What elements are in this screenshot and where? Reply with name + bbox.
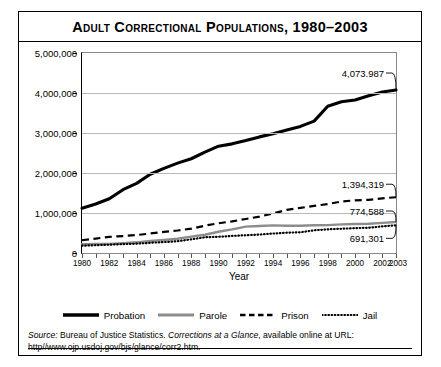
x-axis-tick-label: 1994 (264, 259, 282, 268)
x-axis-tick-mark (150, 254, 151, 258)
legend-swatch-prison (240, 310, 276, 320)
x-axis-tick-mark (164, 254, 165, 258)
x-axis-tick-mark (191, 254, 192, 258)
series-layer (82, 53, 396, 253)
figure-container: Adult Correctional Populations, 1980–200… (18, 11, 422, 356)
source-body-1: Bureau of Justice Statistics. (58, 330, 168, 340)
x-axis-tick-label: 2003 (389, 259, 407, 268)
gridline (82, 93, 396, 94)
y-axis-tick-label: 5,000,000 (35, 48, 77, 59)
x-axis-tick-mark (382, 254, 383, 258)
x-axis-tick-label: 1980 (73, 259, 91, 268)
y-axis-tick-label: 3,000,000 (35, 128, 77, 139)
x-axis-tick-label: 1990 (209, 259, 227, 268)
x-axis-tick-label: 1998 (319, 259, 337, 268)
x-axis-tick-mark (355, 254, 356, 258)
x-axis-tick-mark (178, 254, 179, 258)
x-axis-tick-mark (137, 254, 138, 258)
x-axis-tick-mark (287, 254, 288, 258)
x-axis-tick-label: 1986 (155, 259, 173, 268)
legend-item-jail: Jail (322, 310, 378, 321)
legend-label: Jail (363, 310, 378, 321)
legend: ProbationParolePrisonJail (19, 304, 421, 326)
y-axis-tick-mark (73, 53, 77, 54)
x-axis-tick-label: 2000 (346, 259, 364, 268)
legend-label: Prison (281, 310, 308, 321)
series-line-probation (82, 90, 396, 208)
data-label-parole: 774,588 (19, 206, 384, 217)
x-axis-tick-label: 1984 (127, 259, 145, 268)
x-axis-tick-mark (96, 254, 97, 258)
y-axis-tick-label: 2,000,000 (35, 168, 77, 179)
source-work-title: Corrections at a Glance (168, 330, 258, 340)
x-axis-tick-mark (246, 254, 247, 258)
y-axis-tick-mark (73, 93, 77, 94)
x-axis-tick-mark (273, 254, 274, 258)
legend-item-probation: Probation (63, 310, 145, 321)
legend-label: Parole (199, 310, 227, 321)
data-label-probation: 4,073.987 (19, 68, 384, 79)
x-axis-tick-mark (232, 254, 233, 258)
y-axis-tick-mark (73, 253, 77, 254)
x-axis-tick-label: 1992 (237, 259, 255, 268)
x-axis-tick-mark (205, 254, 206, 258)
x-axis-tick-mark (82, 254, 83, 258)
x-axis-tick-mark (109, 254, 110, 258)
legend-swatch-jail (322, 310, 358, 320)
page-title: Adult Correctional Populations, 1980–200… (72, 19, 368, 35)
gridline (82, 173, 396, 174)
y-axis-tick-mark (73, 173, 77, 174)
x-axis-tick-mark (328, 254, 329, 258)
legend-swatch-parole (158, 310, 194, 320)
x-axis-tick-label: 1996 (291, 259, 309, 268)
data-label-jail: 691,301 (19, 233, 384, 244)
source-prefix: Source: (28, 330, 58, 340)
x-axis-tick-mark (259, 254, 260, 258)
x-axis-tick-mark (219, 254, 220, 258)
source-note: Source: Bureau of Justice Statistics. Co… (19, 326, 421, 353)
x-axis-tick-mark (341, 254, 342, 258)
chart-title-band: Adult Correctional Populations, 1980–200… (19, 12, 421, 42)
y-axis-tick-label: 4,000,000 (35, 88, 77, 99)
x-axis-tick-mark (123, 254, 124, 258)
legend-label: Probation (104, 310, 145, 321)
data-label-prison: 1,394,319 (19, 179, 384, 190)
chart-body: 5,000,0004,000,0003,000,0002,000,0001,00… (19, 42, 421, 304)
x-axis-tick-label: 1982 (100, 259, 118, 268)
y-axis-tick-mark (73, 133, 77, 134)
legend-swatch-probation (63, 310, 99, 320)
x-axis: Year 19801982198419861988199019921994199… (81, 254, 397, 294)
x-axis-tick-mark (396, 254, 397, 258)
plot-area (81, 52, 397, 254)
legend-item-prison: Prison (240, 310, 308, 321)
legend-item-parole: Parole (158, 310, 227, 321)
x-axis-title: Year (81, 271, 397, 282)
bottom-rule (28, 348, 412, 349)
x-axis-tick-label: 1988 (182, 259, 200, 268)
x-axis-tick-mark (300, 254, 301, 258)
x-axis-tick-mark (369, 254, 370, 258)
gridline (82, 133, 396, 134)
x-axis-tick-mark (314, 254, 315, 258)
